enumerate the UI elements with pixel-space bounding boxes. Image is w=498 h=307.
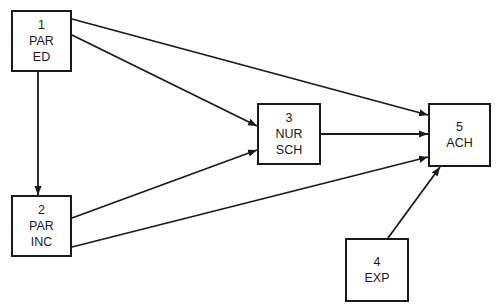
path-arrows [0,0,498,307]
node-number: 4 [374,254,381,270]
node-number: 2 [38,202,45,218]
node-number: 1 [38,17,45,33]
node-label-line: EXP [364,270,389,286]
arrow-1-to-5 [72,19,428,115]
node-3: 3NURSCH [257,103,321,165]
node-label-line: INC [31,234,53,250]
node-1: 1PARED [11,10,72,72]
node-label-line: SCH [276,142,302,158]
node-number: 5 [456,119,463,135]
arrow-2-to-5 [72,157,428,247]
node-label-line: PAR [29,33,54,49]
node-2: 2PARINC [11,195,72,257]
node-label-line: PAR [29,218,54,234]
node-label-line: ACH [446,135,472,151]
node-5: 5ACH [428,103,491,167]
node-number: 3 [286,110,293,126]
arrow-1-to-3 [72,35,257,126]
node-4: 4EXP [345,238,409,302]
node-label-line: ED [33,49,50,65]
arrow-4-to-5 [388,167,440,238]
node-label-line: NUR [275,126,302,142]
